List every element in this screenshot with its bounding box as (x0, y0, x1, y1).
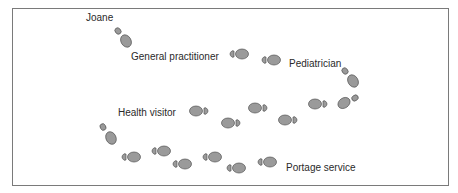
footprint-icon (118, 33, 133, 49)
footprint-icon (173, 159, 192, 169)
footprints-layer (0, 0, 458, 193)
label-portage-service: Portage service (286, 163, 355, 173)
footprint-icon (351, 94, 360, 102)
footprint-icon (203, 152, 222, 162)
label-pediatrician: Pediatrician (289, 59, 341, 69)
footprint-icon (122, 152, 141, 162)
label-health-visitor: Health visitor (118, 108, 176, 118)
footprint-icon (279, 115, 298, 125)
footprint-icon (258, 157, 277, 167)
footprint-icon (336, 95, 352, 111)
footprint-icon (190, 106, 209, 116)
footprint-icon (345, 73, 360, 89)
footprint-icon (104, 130, 119, 146)
footprint-icon (222, 118, 241, 128)
label-joane: Joane (86, 13, 113, 23)
label-general-practitioner: General practitioner (131, 52, 219, 62)
footprint-icon (99, 123, 107, 132)
footprint-icon (230, 49, 249, 59)
footprint-icon (309, 99, 328, 109)
footprint-icon (249, 103, 268, 113)
footprint-icon (152, 146, 171, 156)
footprint-icon (114, 27, 123, 36)
footprint-icon (227, 163, 246, 173)
footprint-icon (262, 55, 281, 65)
footprint-icon (341, 67, 350, 76)
